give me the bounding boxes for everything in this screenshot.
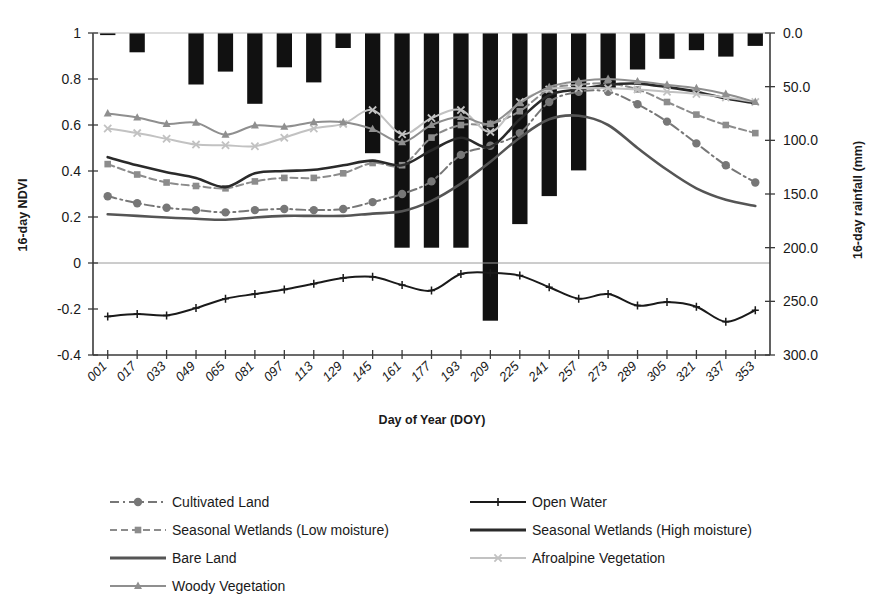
- data-point: [192, 206, 200, 214]
- y-tick-label: 0.8: [62, 71, 82, 87]
- y2-tick-label: 150.0: [783, 186, 818, 202]
- x-tick-label: 001: [84, 359, 110, 385]
- x-tick-label: 129: [319, 359, 345, 385]
- rainfall-bar: [365, 33, 380, 153]
- y-tick-label: -0.2: [57, 301, 81, 317]
- x-tick-label: 305: [643, 358, 669, 384]
- data-point: [428, 134, 435, 141]
- rainfall-bar: [453, 33, 468, 248]
- legend-marker: [134, 498, 142, 506]
- data-point: [605, 290, 612, 298]
- x-tick-label: 145: [349, 358, 375, 384]
- data-point: [310, 280, 317, 288]
- rainfall-bar: [630, 33, 645, 70]
- data-point: [222, 295, 229, 303]
- data-point: [457, 270, 464, 278]
- data-point: [104, 161, 111, 168]
- y2-tick-label: 250.0: [783, 293, 818, 309]
- y2-tick-label: 200.0: [783, 240, 818, 256]
- legend-item-cultivated-land[interactable]: Cultivated Land: [110, 494, 269, 510]
- legend-item-afroalpine-vegetation[interactable]: Afroalpine Vegetation: [470, 550, 665, 566]
- y-tick-label: 0.4: [62, 163, 82, 179]
- x-tick-label: 113: [291, 358, 317, 384]
- x-axis-title: Day of Year (DOY): [379, 413, 486, 427]
- data-point: [162, 204, 170, 212]
- legend-item-woody-vegetation[interactable]: Woody Vegetation: [110, 578, 285, 594]
- data-point: [399, 281, 406, 289]
- data-point: [340, 170, 347, 177]
- x-tick-label: 337: [702, 358, 728, 384]
- x-tick-label: 177: [408, 358, 434, 384]
- data-point: [457, 151, 465, 159]
- data-point: [722, 161, 730, 169]
- x-tick-label: 209: [466, 359, 493, 386]
- x-tick-label: 241: [525, 359, 552, 386]
- legend-label: Cultivated Land: [172, 494, 269, 510]
- data-point: [133, 199, 141, 207]
- data-point: [427, 177, 435, 185]
- x-tick-label: 289: [613, 359, 640, 386]
- rainfall-bar: [247, 33, 262, 104]
- data-point: [163, 311, 170, 319]
- data-point: [134, 171, 141, 178]
- rainfall-bar: [336, 33, 351, 48]
- data-point: [281, 175, 288, 182]
- x-tick-label: 049: [172, 359, 198, 385]
- y-tick-label: 0.2: [62, 209, 82, 225]
- legend-item-seasonal-wetlands-low-moisture[interactable]: Seasonal Wetlands (Low moisture): [110, 522, 389, 538]
- rainfall-bar: [130, 33, 145, 52]
- series-open-water: [104, 269, 759, 326]
- x-tick-label: 065: [202, 358, 228, 384]
- y-tick-label: -0.4: [57, 347, 81, 363]
- legend-label: Bare Land: [172, 550, 237, 566]
- data-point: [664, 298, 671, 306]
- legend-item-bare-land[interactable]: Bare Land: [110, 550, 237, 566]
- y2-tick-label: 0.0: [783, 25, 803, 41]
- data-point: [516, 272, 523, 280]
- y2-tick-label: 100.0: [783, 132, 818, 148]
- data-point: [252, 178, 259, 185]
- data-point: [339, 205, 347, 213]
- data-point: [752, 130, 759, 137]
- x-tick-label: 353: [731, 358, 757, 384]
- x-tick-label: 257: [554, 358, 581, 385]
- legend-marker: [495, 498, 502, 506]
- rainfall-bar: [659, 33, 674, 59]
- data-point: [546, 283, 553, 291]
- rainfall-bars-layer: [100, 33, 763, 321]
- legend-marker: [135, 527, 142, 534]
- rainfall-bar: [306, 33, 321, 82]
- legend-item-seasonal-wetlands-high-moisture[interactable]: Seasonal Wetlands (High moisture): [470, 522, 752, 538]
- rainfall-bar: [689, 33, 704, 50]
- data-point: [751, 178, 759, 186]
- data-point: [311, 175, 318, 182]
- data-point: [104, 192, 112, 200]
- data-point: [545, 98, 553, 106]
- y2-axis-title: 16-day rainfall (mm): [851, 141, 865, 259]
- x-tick-label: 097: [260, 358, 286, 384]
- x-tick-label: 081: [231, 359, 257, 385]
- y-tick-label: 0: [73, 255, 81, 271]
- legend-label: Seasonal Wetlands (High moisture): [532, 522, 752, 538]
- rainfall-bar: [542, 33, 557, 196]
- data-point: [280, 205, 288, 213]
- data-point: [692, 139, 700, 147]
- x-tick-label: 273: [584, 358, 611, 385]
- chart-legend: Cultivated LandOpen WaterSeasonal Wetlan…: [110, 494, 752, 594]
- series-line: [108, 272, 756, 322]
- data-point: [104, 109, 112, 116]
- legend-label: Seasonal Wetlands (Low moisture): [172, 522, 389, 538]
- data-point: [221, 208, 229, 216]
- x-tick-label: 321: [673, 359, 699, 385]
- y-tick-label: 0.6: [62, 117, 82, 133]
- y-tick-label: 1: [73, 25, 81, 41]
- data-point: [634, 302, 641, 310]
- chart-figure: -0.4-0.200.20.40.60.810.050.0100.0150.02…: [0, 0, 880, 614]
- x-tick-label: 193: [437, 358, 463, 384]
- legend-item-open-water[interactable]: Open Water: [470, 494, 607, 510]
- legend-label: Woody Vegetation: [172, 578, 285, 594]
- data-point: [575, 295, 582, 303]
- data-point: [517, 108, 524, 115]
- x-tick-label: 225: [495, 358, 522, 385]
- data-point: [663, 117, 671, 125]
